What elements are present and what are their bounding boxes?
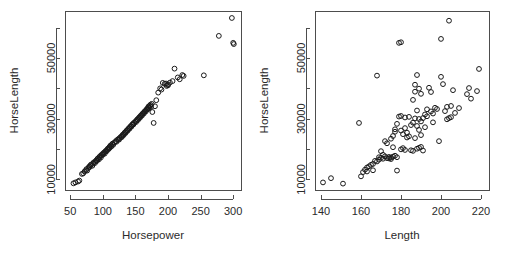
data-point: [469, 96, 474, 101]
x-axis-title: Length: [384, 229, 419, 241]
scatterplot-figure: 50100150200250300Horsepower1000030000500…: [0, 0, 506, 263]
data-point: [447, 18, 452, 23]
data-point: [150, 110, 155, 115]
panel-horsepower-canvas: 50100150200250300Horsepower1000030000500…: [0, 0, 253, 263]
data-point: [159, 87, 164, 92]
data-point: [395, 168, 400, 173]
panel-horsepower: 50100150200250300Horsepower1000030000500…: [0, 0, 253, 263]
x-tick-label: 150: [126, 205, 144, 217]
y-tick-label: 50000: [45, 43, 57, 74]
data-point: [451, 88, 456, 93]
data-point: [321, 180, 326, 185]
data-point: [329, 176, 334, 181]
x-tick-label: 50: [64, 205, 76, 217]
data-point: [477, 67, 482, 72]
data-point: [475, 89, 480, 94]
x-tick-label: 300: [224, 205, 242, 217]
data-point: [423, 125, 428, 130]
data-point: [341, 181, 346, 186]
x-tick-label: 250: [191, 205, 209, 217]
data-point: [154, 98, 159, 103]
data-points-length: [321, 18, 482, 186]
data-point: [229, 16, 234, 21]
data-point: [158, 86, 163, 91]
y-axis-title: HorseLength: [258, 68, 270, 134]
data-point: [375, 73, 380, 78]
panel-length-canvas: 140160180200220Length100003000050000Hors…: [253, 0, 506, 263]
data-point: [411, 97, 416, 102]
panel-length: 140160180200220Length100003000050000Hors…: [253, 0, 506, 263]
data-point: [413, 136, 418, 141]
data-point: [413, 82, 418, 87]
y-tick-label: 30000: [45, 103, 57, 134]
data-point: [457, 106, 462, 111]
y-tick-label: 50000: [295, 43, 307, 74]
data-point: [415, 108, 420, 113]
y-tick-label: 10000: [295, 164, 307, 195]
x-tick-label: 220: [472, 205, 490, 217]
data-point: [431, 120, 436, 125]
x-tick-label: 200: [159, 205, 177, 217]
data-point: [391, 145, 396, 150]
data-point: [417, 86, 422, 91]
data-point: [395, 121, 400, 126]
data-points-horsepower: [71, 16, 236, 186]
y-tick-label: 30000: [295, 103, 307, 134]
data-point: [181, 74, 186, 79]
data-point: [439, 74, 444, 79]
data-point: [201, 73, 206, 78]
y-tick-label: 10000: [45, 164, 57, 195]
data-point: [419, 91, 424, 96]
data-point: [357, 121, 362, 126]
data-point: [437, 139, 442, 144]
data-point: [453, 111, 458, 116]
x-tick-label: 180: [392, 205, 410, 217]
data-point: [465, 92, 470, 97]
data-point: [429, 90, 434, 95]
data-point: [439, 37, 444, 42]
x-tick-label: 100: [94, 205, 112, 217]
data-point: [419, 133, 424, 138]
x-tick-label: 140: [312, 205, 330, 217]
data-point: [371, 168, 376, 173]
y-axis-title: HorseLength: [8, 68, 20, 134]
x-axis-title: Horsepower: [122, 229, 184, 241]
data-point: [172, 66, 177, 71]
data-point: [216, 33, 221, 38]
x-tick-label: 200: [432, 205, 450, 217]
data-point: [467, 86, 472, 91]
data-point: [417, 128, 422, 133]
x-tick-label: 160: [352, 205, 370, 217]
data-point: [151, 121, 156, 126]
data-point: [441, 82, 446, 87]
data-point: [415, 73, 420, 78]
